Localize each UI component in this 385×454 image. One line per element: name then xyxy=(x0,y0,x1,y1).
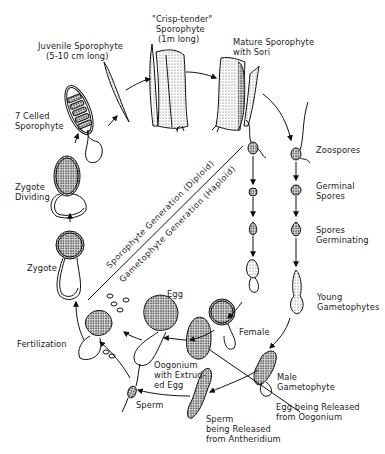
spore-germinating-illustration xyxy=(292,222,301,236)
label-line: from Oogonium xyxy=(276,412,360,422)
label-line: Sporophyte xyxy=(15,121,64,131)
label-line: Egg xyxy=(167,289,183,299)
label-line: Fertilization xyxy=(17,339,67,349)
label-line: Egg being Released xyxy=(276,402,360,412)
label-line: Spores xyxy=(316,225,369,235)
germinal-spore-illustration xyxy=(291,185,301,195)
label-line: Oogonium xyxy=(154,360,206,370)
label-seven-celled-sporophyte: 7 Celled Sporophyte xyxy=(15,111,64,131)
female-gametophyte-illustration xyxy=(209,299,235,349)
label-line: Young xyxy=(317,292,379,302)
label-male-gametophyte: Male Gametophyte xyxy=(277,372,335,392)
fertilization-illustration xyxy=(79,294,129,360)
label-line: Juvenile Sporophyte xyxy=(38,41,123,51)
label-line: Sperm xyxy=(206,414,281,424)
label-zygote: Zygote xyxy=(27,263,57,273)
seven-celled-sporophyte-illustration xyxy=(59,82,102,163)
label-crisp-tender-sporophyte: "Crisp-tender" Sporophyte (1m long) xyxy=(152,14,213,44)
inner-spore-germinating-illustration xyxy=(249,222,257,235)
label-line: from Antheridium xyxy=(206,434,281,444)
label-line: Germinating xyxy=(316,235,369,245)
egg-release-illustration xyxy=(186,317,211,359)
label-juvenile-sporophyte: Juvenile Sporophyte (5-10 cm long) xyxy=(38,41,123,61)
label-line: (5-10 cm long) xyxy=(38,51,123,61)
label-line: Gametophyte xyxy=(277,382,335,392)
label-line: with Sori xyxy=(233,47,314,57)
juvenile-sporophyte-illustration xyxy=(104,62,129,122)
zoospore-illustration xyxy=(291,102,310,163)
label-line: Zygote xyxy=(27,263,57,273)
label-young-gametophytes: Young Gametophytes xyxy=(317,292,379,312)
label-germinal-spores: Germinal Spores xyxy=(316,181,355,201)
label-line: (1m long) xyxy=(152,34,213,44)
label-oogonium-extruded-egg: Oogonium with Extrud- ed Egg xyxy=(154,360,206,390)
label-line: "Crisp-tender" xyxy=(152,14,213,24)
label-line: Mature Sporophyte xyxy=(233,37,314,47)
label-line: with Extrud- xyxy=(154,370,206,380)
label-line: ed Egg xyxy=(154,380,206,390)
label-line: Male xyxy=(277,372,335,382)
inner-germinal-spore-illustration xyxy=(249,188,257,196)
young-gametophyte-illustration xyxy=(290,270,303,314)
generation-divider-line xyxy=(88,146,243,300)
label-egg-being-released: Egg being Released from Oogonium xyxy=(276,402,360,422)
zygote-dividing-illustration xyxy=(51,156,86,218)
label-line: being Released xyxy=(206,424,281,434)
label-line: Gametophytes xyxy=(317,302,379,312)
label-spores-germinating: Spores Germinating xyxy=(316,225,369,245)
male-gametophyte-illustration xyxy=(254,351,276,396)
label-zoospores: Zoospores xyxy=(316,145,360,155)
label-line: Female xyxy=(239,327,270,337)
label-fertilization: Fertilization xyxy=(17,339,67,349)
label-sperm: Sperm xyxy=(136,400,164,410)
label-line: Spores xyxy=(316,191,355,201)
inner-zoospore-illustration xyxy=(246,120,266,158)
crisp-tender-sporophyte-illustration xyxy=(150,44,188,132)
label-line: Dividing xyxy=(15,192,50,202)
label-egg: Egg xyxy=(167,289,183,299)
label-line: Germinal xyxy=(316,181,355,191)
label-line: 7 Celled xyxy=(15,111,64,121)
label-mature-sporophyte: Mature Sporophyte with Sori xyxy=(233,37,314,57)
label-line: Sporophyte xyxy=(152,24,213,34)
label-line: Sperm xyxy=(136,400,164,410)
label-sperm-being-released: Sperm being Released from Antheridium xyxy=(206,414,281,444)
mature-sporophyte-illustration xyxy=(212,57,259,132)
label-female: Female xyxy=(239,327,270,337)
zygote-illustration xyxy=(56,231,84,299)
inner-young-gametophyte-illustration xyxy=(247,260,259,292)
label-line: Zygote xyxy=(15,182,50,192)
egg-illustration xyxy=(134,295,178,365)
label-line: Zoospores xyxy=(316,145,360,155)
label-zygote-dividing: Zygote Dividing xyxy=(15,182,50,202)
